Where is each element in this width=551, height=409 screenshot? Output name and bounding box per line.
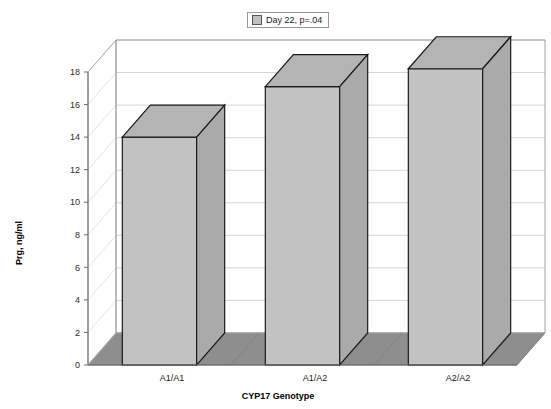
y-tick-label: 0 [75,360,80,370]
y-tick-label: 2 [75,328,80,338]
bar-A1-A2 [265,55,367,365]
bar-A2-A2 [408,37,510,365]
y-tick-label: 18 [70,67,80,77]
y-tick-label: 10 [70,197,80,207]
y-tick-label: 12 [70,165,80,175]
y-tick-label: 6 [75,263,80,273]
x-category-label: A1/A2 [303,373,328,383]
chart-container: Day 22, p=.04 024681012141618A1/A1A1/A2A… [0,0,551,409]
bar-chart-plot: 024681012141618A1/A1A1/A2A2/A2 [0,0,551,409]
y-tick-label: 4 [75,295,80,305]
bar-A1-A1 [122,105,224,365]
y-tick-label: 16 [70,100,80,110]
chart-bars [122,37,510,365]
x-category-label: A1/A1 [160,373,185,383]
x-category-label: A2/A2 [446,373,471,383]
y-tick-label: 14 [70,132,80,142]
y-tick-label: 8 [75,230,80,240]
